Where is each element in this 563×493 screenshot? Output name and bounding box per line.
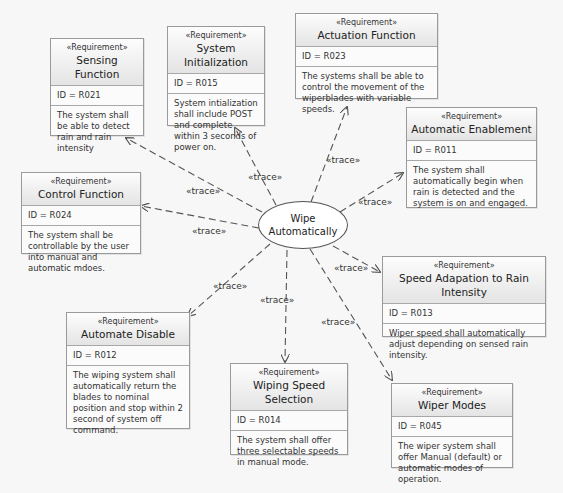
requirement-text: System intialization shall include POST …: [168, 94, 264, 157]
requirement-title: Control Function: [24, 187, 138, 201]
requirement-title: Automate Disable: [69, 327, 187, 341]
requirement-header: «Requirement» Automate Disable: [67, 313, 189, 346]
stereotype-label: «Requirement»: [233, 367, 345, 378]
trace-label-sensing: «trace»: [186, 186, 220, 196]
requirement-sensing-function[interactable]: «Requirement» Sensing Function ID = R021…: [50, 38, 144, 136]
requirement-id: ID = R045: [392, 417, 512, 437]
stereotype-label: «Requirement»: [394, 387, 510, 398]
requirement-header: «Requirement» Wiping Speed Selection: [231, 364, 347, 411]
stereotype-label: «Requirement»: [53, 42, 141, 53]
requirement-actuation-function[interactable]: «Requirement» Actuation Function ID = R0…: [295, 13, 438, 99]
requirement-text: The system shall automatically begin whe…: [407, 161, 536, 213]
use-case-wipe-automatically[interactable]: Wipe Automatically: [258, 201, 348, 249]
requirement-wiper-modes[interactable]: «Requirement» Wiper Modes ID = R045 The …: [391, 383, 513, 468]
requirement-text: The system shall be controllable by the …: [22, 226, 140, 278]
requirement-header: «Requirement» Wiper Modes: [392, 384, 512, 417]
trace-label-enablement: «trace»: [358, 197, 392, 207]
requirement-text: The wiper system shall offer Manual (def…: [392, 437, 512, 489]
requirement-title: Wiper Modes: [394, 398, 510, 412]
stereotype-label: «Requirement»: [385, 260, 543, 271]
requirement-automate-disable[interactable]: «Requirement» Automate Disable ID = R012…: [66, 312, 190, 429]
requirement-header: «Requirement» System Initialization: [168, 27, 264, 74]
requirement-id: ID = R024: [22, 206, 140, 226]
requirement-text: The wiping system shall automatically re…: [67, 366, 189, 440]
requirement-header: «Requirement» Speed Adapation to Rain In…: [383, 257, 545, 304]
requirement-title: System Initialization: [170, 41, 262, 69]
trace-label-modes: «trace»: [321, 317, 355, 327]
requirement-wiping-speed-selection[interactable]: «Requirement» Wiping Speed Selection ID …: [230, 363, 348, 455]
requirement-speed-adaptation[interactable]: «Requirement» Speed Adapation to Rain In…: [382, 256, 546, 337]
requirement-automatic-enablement[interactable]: «Requirement» Automatic Enablement ID = …: [406, 107, 537, 208]
requirement-text: The system shall be able to detect rain …: [51, 106, 143, 158]
requirement-text: Wiper speed shall automatically adjust d…: [383, 324, 545, 365]
requirement-header: «Requirement» Automatic Enablement: [407, 108, 536, 141]
requirement-system-initialization[interactable]: «Requirement» System Initialization ID =…: [167, 26, 265, 126]
requirement-id: ID = R012: [67, 346, 189, 366]
requirement-title: Actuation Function: [298, 28, 435, 42]
requirement-title: Sensing Function: [53, 53, 141, 81]
use-case-label-line2: Automatically: [269, 225, 338, 238]
requirement-title: Automatic Enablement: [409, 122, 534, 136]
requirement-title: Speed Adapation to Rain Intensity: [385, 271, 543, 299]
trace-label-speed-select: «trace»: [260, 295, 294, 305]
requirement-id: ID = R015: [168, 74, 264, 94]
requirement-title: Wiping Speed Selection: [233, 378, 345, 406]
requirement-text: The system shall offer three selectable …: [231, 431, 347, 472]
stereotype-label: «Requirement»: [69, 316, 187, 327]
requirement-id: ID = R014: [231, 411, 347, 431]
requirement-header: «Requirement» Actuation Function: [296, 14, 437, 47]
requirement-id: ID = R011: [407, 141, 536, 161]
trace-label-control: «trace»: [192, 226, 226, 236]
diagram-canvas: «Requirement» Sensing Function ID = R021…: [0, 0, 563, 493]
requirement-id: ID = R013: [383, 304, 545, 324]
requirement-control-function[interactable]: «Requirement» Control Function ID = R024…: [21, 172, 141, 254]
trace-label-actuation: «trace»: [326, 155, 360, 165]
requirement-id: ID = R021: [51, 86, 143, 106]
trace-label-init: «trace»: [248, 172, 282, 182]
requirement-header: «Requirement» Sensing Function: [51, 39, 143, 86]
stereotype-label: «Requirement»: [298, 17, 435, 28]
stereotype-label: «Requirement»: [24, 176, 138, 187]
requirement-header: «Requirement» Control Function: [22, 173, 140, 206]
trace-label-speed-adapt: «trace»: [334, 263, 368, 273]
requirement-id: ID = R023: [296, 47, 437, 67]
stereotype-label: «Requirement»: [409, 111, 534, 122]
stereotype-label: «Requirement»: [170, 30, 262, 41]
trace-label-disable: «trace»: [213, 281, 247, 291]
use-case-label-line1: Wipe: [269, 212, 338, 225]
